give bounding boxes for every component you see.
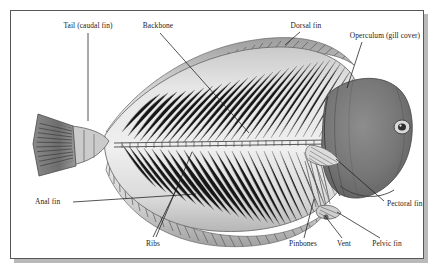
label-dorsal-fin: Dorsal fin	[291, 22, 322, 30]
figure-page: Tail (caudal fin)BackboneDorsal finOperc…	[0, 0, 436, 273]
leader-pelvic-fin	[337, 212, 380, 238]
label-operculum: Operculum (gill cover)	[350, 32, 420, 40]
label-anal-fin: Anal fin	[35, 198, 60, 206]
eye	[394, 120, 410, 134]
fish-head	[322, 76, 413, 202]
leader-vent	[325, 216, 342, 238]
label-pectoral-fin: Pectoral fin	[387, 200, 422, 208]
label-pelvic-fin: Pelvic fin	[372, 240, 402, 248]
label-vent: Vent	[337, 240, 351, 248]
flatfish-illustration	[10, 10, 424, 259]
caudal-peduncle	[72, 126, 109, 165]
label-backbone: Backbone	[143, 22, 173, 30]
label-ribs: Ribs	[146, 240, 160, 248]
label-tail: Tail (caudal fin)	[63, 22, 112, 30]
tail-fin-shape	[32, 114, 76, 176]
label-pinbones: Pinbones	[289, 240, 317, 248]
